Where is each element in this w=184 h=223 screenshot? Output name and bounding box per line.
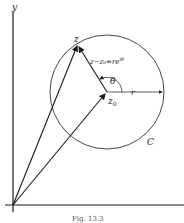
vector-origin-to-z	[13, 46, 77, 205]
y-axis-label: y	[11, 2, 18, 12]
point-z-label: z	[73, 34, 79, 44]
complex-plane-diagram: y C z z0 z−z₀=reiθ θ r Fig. 13.3	[0, 0, 184, 223]
vector-z0-to-z	[79, 47, 107, 92]
radius-r-label: r	[131, 88, 136, 97]
figure-caption: Fig. 13.3	[72, 215, 104, 223]
vector-equation-label: z−z₀=reiθ	[89, 56, 124, 66]
angle-theta-label: θ	[110, 76, 116, 86]
point-z0-label: z0	[107, 96, 117, 107]
circle-label: C	[147, 137, 154, 147]
vector-origin-to-z0	[13, 94, 105, 205]
